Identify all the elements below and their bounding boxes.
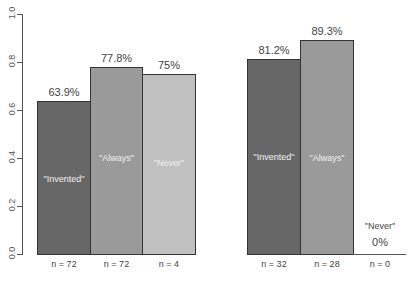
y-tick	[17, 158, 22, 159]
y-tick	[17, 206, 22, 207]
y-tick	[17, 62, 22, 63]
bar-category-label: "Always"	[300, 153, 354, 163]
y-tick-label: 0.4	[7, 147, 17, 167]
bar-category-label: "Never"	[142, 158, 196, 168]
baseline-never-group2	[353, 254, 406, 255]
value-label: 0%	[353, 236, 407, 248]
y-tick	[17, 14, 22, 15]
bar-category-label: "Never"	[353, 221, 407, 231]
value-label: 89.3%	[300, 25, 354, 37]
value-label: 77.8%	[90, 52, 143, 64]
n-label: n = 28	[300, 259, 354, 269]
n-label: n = 72	[37, 259, 91, 269]
n-label: n = 0	[353, 259, 407, 269]
bar-category-label: "Invented"	[247, 152, 301, 162]
value-label: 81.2%	[247, 44, 301, 56]
value-label: 75%	[142, 59, 196, 71]
y-tick-label: 1.0	[7, 3, 17, 23]
y-tick-label: 0.8	[7, 51, 17, 71]
y-tick	[17, 254, 22, 255]
y-tick-label: 0.6	[7, 99, 17, 119]
y-axis-line	[22, 14, 23, 255]
n-label: n = 32	[247, 259, 301, 269]
n-label: n = 4	[142, 259, 196, 269]
bar-category-label: "Invented"	[37, 174, 91, 184]
y-tick-label: 0.0	[7, 243, 17, 263]
value-label: 63.9%	[37, 86, 91, 98]
y-tick-label: 0.2	[7, 195, 17, 215]
y-tick	[17, 110, 22, 111]
n-label: n = 72	[90, 259, 143, 269]
bar-category-label: "Always"	[90, 153, 143, 163]
bar-always-group2	[300, 40, 354, 255]
